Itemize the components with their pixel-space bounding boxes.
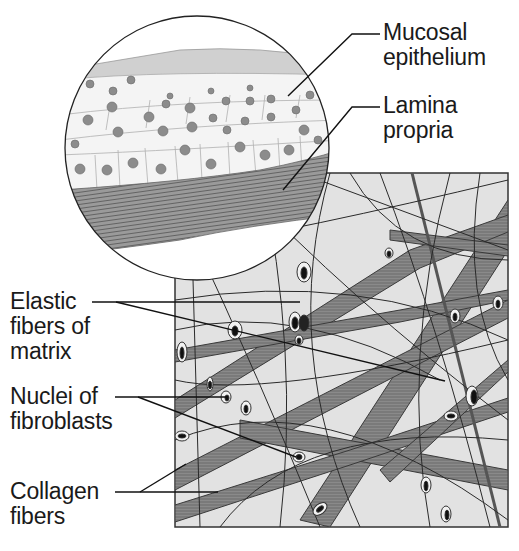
label-lamina-propria: Lamina propria [383,93,457,143]
label-nuclei-fibroblasts-line1: Nuclei of [10,384,113,409]
label-mucosal-epithelium-line2: epithelium [383,45,486,70]
label-elastic-fibers-line3: matrix [10,339,90,364]
label-nuclei-fibroblasts: Nuclei of fibroblasts [10,384,113,434]
label-collagen-fibers-line1: Collagen [10,479,99,504]
label-collagen-fibers-line2: fibers [10,504,99,529]
label-elastic-fibers: Elastic fibers of matrix [10,289,90,364]
label-nuclei-fibroblasts-line2: fibroblasts [10,409,113,434]
label-lamina-propria-line1: Lamina [383,93,457,118]
label-collagen-fibers: Collagen fibers [10,479,99,529]
label-elastic-fibers-line1: Elastic [10,289,90,314]
label-lamina-propria-line2: propria [383,118,457,143]
label-elastic-fibers-line2: fibers of [10,314,90,339]
label-mucosal-epithelium: Mucosal epithelium [383,20,486,70]
label-mucosal-epithelium-line1: Mucosal [383,20,486,45]
tissue-diagram [0,0,519,551]
